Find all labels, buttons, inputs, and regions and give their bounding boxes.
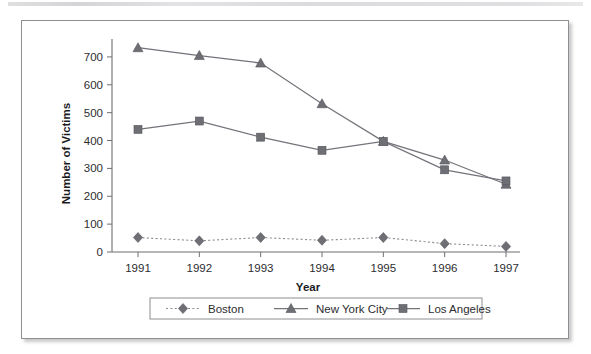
data-point-square [379,137,387,145]
data-point-square [502,177,510,185]
legend-entry-new-york-city[interactable]: New York City [274,303,388,315]
x-tick-label: 1995 [371,262,397,274]
y-tick-label: 700 [84,51,103,63]
legend-label: New York City [316,303,388,315]
x-tick-label: 1993 [248,262,274,274]
x-tick-label: 1996 [432,262,458,274]
data-point-diamond [501,241,510,251]
y-tick-label: 100 [84,218,103,230]
legend-entry-los-angeles[interactable]: Los Angeles [386,303,491,315]
data-point-diamond [133,233,142,243]
series-new-york-city [133,43,511,189]
data-point-square [441,166,449,174]
data-point-diamond [440,239,449,249]
scan-artifact-band [8,2,583,6]
y-axis-title: Number of Victims [60,103,72,204]
y-tick-label: 200 [84,190,103,202]
series-path [138,48,506,185]
y-tick-label: 300 [84,162,103,174]
data-point-diamond [317,235,326,245]
x-tick-label: 1994 [309,262,335,274]
data-point-triangle [133,43,143,52]
x-tick-label: 1992 [187,262,213,274]
line-chart-svg: 0100200300400500600700199119921993199419… [22,21,570,340]
y-tick-label: 400 [84,135,103,147]
x-axis-title: Year [296,281,321,293]
x-tick-label: 1997 [493,262,519,274]
series-boston [133,233,510,252]
data-point-diamond [256,233,265,243]
series-los-angeles [134,117,510,185]
y-tick-label: 600 [84,79,103,91]
data-point-triangle [317,99,327,108]
plot-area: 0100200300400500600700199119921993199419… [22,21,570,340]
data-point-square [195,117,203,125]
chart-frame: 0100200300400500600700199119921993199419… [21,20,569,339]
data-point-square [318,146,326,154]
y-tick-label: 500 [84,107,103,119]
y-tick-label: 0 [97,246,103,258]
legend-label: Boston [208,303,244,315]
data-point-square [134,125,142,133]
data-point-square [257,133,265,141]
data-point-diamond [379,233,388,243]
data-point-diamond [195,236,204,246]
x-tick-label: 1991 [125,262,151,274]
legend-label: Los Angeles [428,303,491,315]
data-point-square [399,305,407,313]
